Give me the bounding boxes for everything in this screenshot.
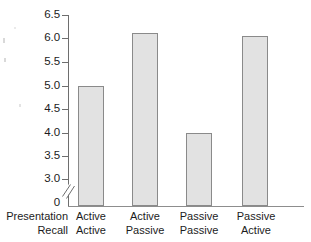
y-axis-zero-label: 0 [26,197,60,209]
y-axis-tick-label: 4.0 [26,127,60,139]
y-axis-tick-label: 5.5 [26,56,60,68]
y-axis-tick [62,156,69,157]
y-axis-tick-label: 3.0 [26,173,60,185]
category-label-1: Active Active [69,210,113,237]
y-axis-tick [62,109,69,110]
bar-active-passive [132,33,158,206]
y-axis-tick [62,179,69,180]
scan-artifact [19,104,21,107]
y-axis-tick [62,38,69,39]
row-header-recall: Recall [2,224,68,238]
category-recall-4: Active [228,224,284,238]
y-axis-tick-label: 3.5 [26,150,60,162]
y-axis-tick-label: 4.5 [26,103,60,115]
category-presentation-2: Active [130,210,160,222]
category-presentation-4: Passive [237,210,276,222]
scan-artifact [3,38,5,43]
x-axis-line [68,206,304,207]
category-label-2: Active Passive [118,210,172,237]
row-header-presentation: Presentation [6,210,68,222]
axis-row-headers: Presentation Recall [2,210,68,237]
bar-passive-active [242,36,268,206]
y-axis-tick [62,62,69,63]
y-axis-line [68,15,69,206]
category-recall-2: Passive [118,224,172,238]
bar-active-active [78,86,104,206]
scan-artifact [14,27,16,29]
category-label-3: Passive Passive [171,210,227,237]
bar-passive-passive [186,133,212,206]
category-recall-3: Passive [171,224,227,238]
axis-break-icon [60,183,78,200]
y-axis-tick [62,133,69,134]
y-axis-tick-label: 5.0 [26,80,60,92]
scan-artifact [4,58,6,62]
y-axis-tick-label: 6.5 [26,9,60,21]
category-presentation-1: Active [76,210,106,222]
bar-chart: 6.5 6.0 5.5 5.0 4.5 4.0 3.5 3.0 0 [0,0,311,242]
category-label-4: Passive Active [228,210,284,237]
category-presentation-3: Passive [180,210,219,222]
y-axis-tick-label: 6.0 [26,32,60,44]
y-axis-tick [62,86,69,87]
category-recall-1: Active [69,224,113,238]
y-axis-tick [62,15,69,16]
